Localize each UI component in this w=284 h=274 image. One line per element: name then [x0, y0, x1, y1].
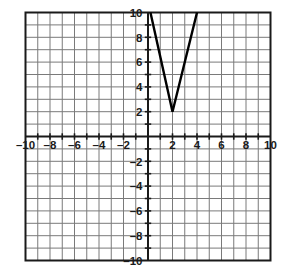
- y-tick-label: –4: [130, 180, 143, 192]
- y-tick-label: –8: [130, 230, 143, 242]
- y-tick-label: 6: [136, 56, 142, 68]
- x-tick-label: 2: [169, 139, 175, 151]
- x-tick-label: 10: [264, 139, 277, 151]
- coordinate-graph-figure: –10–8–6–4–2246810 108642–2–4–6–8–10: [0, 0, 284, 274]
- x-tick-label: 8: [243, 139, 250, 151]
- y-tick-label: –2: [130, 156, 143, 168]
- y-tick-label: 8: [136, 32, 143, 44]
- coordinate-plane-svg: –10–8–6–4–2246810 108642–2–4–6–8–10: [0, 0, 284, 274]
- x-tick-label: –6: [68, 139, 81, 151]
- y-tick-label: –6: [130, 205, 143, 217]
- x-tick-label: –4: [93, 139, 106, 151]
- x-tick-label: 6: [218, 139, 224, 151]
- x-tick-label: –10: [16, 139, 35, 151]
- x-tick-label: –8: [44, 139, 57, 151]
- y-tick-label: 10: [130, 7, 143, 19]
- y-tick-label: 4: [136, 81, 143, 93]
- y-tick-label: –10: [123, 255, 142, 267]
- x-tick-label: 4: [194, 139, 201, 151]
- x-tick-label: –2: [117, 139, 130, 151]
- y-tick-label: 2: [136, 106, 142, 118]
